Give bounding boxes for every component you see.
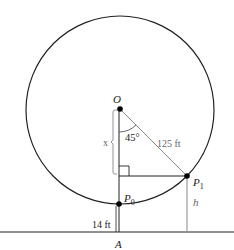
label-center: O [113, 93, 121, 105]
center-point [117, 106, 123, 112]
label-base-point: A [114, 238, 122, 250]
right-angle-marker [119, 166, 129, 176]
label-ground-height: 14 ft [92, 219, 111, 230]
label-angle: 45° [125, 132, 140, 143]
ferris-wheel-diagram: O 45° 125 ft x P1 P0 h 14 ft A [0, 0, 234, 250]
point-p1 [184, 173, 190, 179]
point-p0 [116, 201, 122, 207]
x-bracket [111, 110, 117, 174]
label-p0: P0 [123, 192, 135, 207]
label-p1: P1 [192, 176, 204, 191]
label-x: x [103, 137, 108, 148]
label-radius: 125 ft [157, 138, 181, 149]
label-h: h [193, 196, 199, 208]
angle-arc [119, 125, 136, 132]
